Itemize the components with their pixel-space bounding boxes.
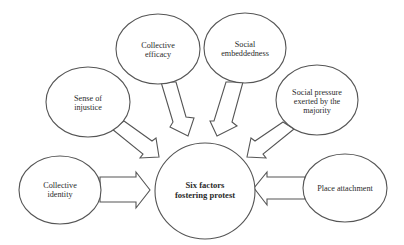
center-label-line: fostering protest bbox=[175, 190, 235, 200]
node-social-embeddedness: Social embeddedness bbox=[204, 13, 286, 83]
arrow-social-pressure bbox=[247, 122, 294, 158]
node-label-line: Collective bbox=[141, 41, 175, 50]
node-label-line: Collective bbox=[43, 181, 77, 190]
node-collective-efficacy: Collective efficacy bbox=[116, 14, 200, 84]
node-label-line: Social pressure bbox=[292, 88, 342, 97]
node-label-line: exerted by the bbox=[294, 97, 341, 106]
node-label-line: embeddedness bbox=[221, 49, 269, 58]
arrow-social-embeddedness bbox=[210, 82, 243, 136]
node-label-line: efficacy bbox=[145, 50, 172, 59]
node-collective-identity: Collective identity bbox=[19, 156, 101, 224]
node-label-line: Social bbox=[235, 40, 256, 49]
arrow-collective-identity bbox=[100, 172, 150, 208]
node-label-line: Sense of bbox=[74, 94, 102, 103]
diagram-canvas: Collective efficacy Social embeddedness … bbox=[0, 0, 404, 245]
node-label-line: injustice bbox=[74, 103, 102, 112]
six-factors-diagram: Collective efficacy Social embeddedness … bbox=[0, 0, 404, 245]
node-label-line: majority bbox=[303, 106, 332, 115]
arrow-sense-of-injustice bbox=[112, 121, 159, 158]
node-label-line: identity bbox=[47, 190, 73, 199]
arrow-collective-efficacy bbox=[161, 82, 194, 136]
node-social-pressure: Social pressure exerted by the majority bbox=[276, 65, 358, 135]
node-label-line: Place attachment bbox=[317, 184, 373, 193]
node-center-six-factors: Six factors fostering protest bbox=[155, 143, 255, 239]
node-place-attachment: Place attachment bbox=[303, 154, 387, 222]
center-label-line: Six factors bbox=[186, 180, 226, 190]
node-sense-of-injustice: Sense of injustice bbox=[46, 67, 130, 137]
arrow-place-attachment bbox=[254, 172, 305, 205]
